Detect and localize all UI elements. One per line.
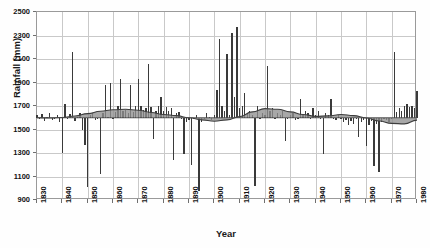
x-axis-tick-mark <box>36 199 37 203</box>
x-axis-tick-label: 1890 <box>191 186 200 203</box>
x-axis-tick-label: 1880 <box>166 186 175 203</box>
x-axis-tick-mark <box>163 199 164 203</box>
x-axis-tick-label: 1920 <box>267 186 276 203</box>
x-axis-tick-mark <box>213 199 214 203</box>
x-axis-tick-label: 1960 <box>368 186 377 203</box>
x-axis-tick-label: 1940 <box>318 186 327 203</box>
plot-area <box>36 11 416 199</box>
y-axis-tick-label: 900 <box>0 195 30 204</box>
x-axis-tick-label: 1840 <box>64 186 73 203</box>
x-axis-tick-mark <box>264 199 265 203</box>
x-axis-tick-label: 1910 <box>242 186 251 203</box>
x-axis-tick-mark <box>137 199 138 203</box>
x-axis-tick-label: 1870 <box>140 186 149 203</box>
x-axis-tick-mark <box>340 199 341 203</box>
x-axis-title: Year <box>36 228 416 239</box>
x-axis-tick-label: 1970 <box>394 186 403 203</box>
x-axis-tick-mark <box>61 199 62 203</box>
y-axis-tick-label: 2100 <box>0 54 30 63</box>
x-axis-tick-label: 1900 <box>216 186 225 203</box>
x-axis-tick-label: 1950 <box>343 186 352 203</box>
x-axis-tick-label: 1930 <box>292 186 301 203</box>
x-axis-tick-mark <box>239 199 240 203</box>
y-axis-tick-label: 1700 <box>0 101 30 110</box>
y-axis-tick-label: 2500 <box>0 7 30 16</box>
x-axis-tick-mark <box>112 199 113 203</box>
y-axis-tick-label: 2300 <box>0 31 30 40</box>
rainfall-time-series-figure: Rainfall (mm) 90011001300150017001900210… <box>0 0 430 248</box>
x-axis-tick-mark <box>365 199 366 203</box>
x-axis-tick-label: 1830 <box>39 186 48 203</box>
x-axis-tick-mark <box>188 199 189 203</box>
figure-caption <box>26 239 416 248</box>
y-axis-tick-label: 1100 <box>0 172 30 181</box>
y-axis-tick-label: 1300 <box>0 148 30 157</box>
y-axis-tick-label: 1500 <box>0 125 30 134</box>
trend-curve-smoothed <box>37 12 417 200</box>
x-axis-tick-label: 1980 <box>419 186 428 203</box>
x-axis-tick-mark <box>391 199 392 203</box>
x-axis-tick-label: 1860 <box>115 186 124 203</box>
y-axis-tick-label: 1900 <box>0 78 30 87</box>
x-axis-tick-mark <box>87 199 88 203</box>
x-axis-tick-mark <box>315 199 316 203</box>
x-axis-tick-label: 1850 <box>90 186 99 203</box>
trend-fill-area <box>37 109 417 124</box>
x-axis-tick-mark <box>289 199 290 203</box>
x-axis-tick-mark <box>416 199 417 203</box>
